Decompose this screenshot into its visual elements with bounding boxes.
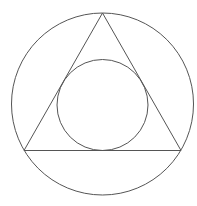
outer-circumscribed-circle [12,13,194,195]
circle-triangle-diagram [0,0,197,206]
equilateral-triangle [24,13,181,151]
inner-inscribed-circle [57,60,148,151]
